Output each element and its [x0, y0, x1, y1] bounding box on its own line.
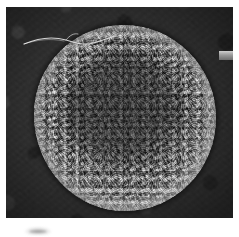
- caption-mark: [25, 227, 51, 235]
- caption-text: [25, 227, 26, 228]
- figure-caption: [0, 0, 1, 1]
- micrograph-plate: [6, 7, 233, 218]
- figure-panel: [0, 0, 239, 237]
- caption-rule: [30, 231, 46, 232]
- specimen-sphere: [34, 25, 216, 211]
- specimen-edge-shadow: [34, 25, 216, 211]
- figure-title: [0, 0, 1, 1]
- edge-marker-tab: [219, 51, 233, 60]
